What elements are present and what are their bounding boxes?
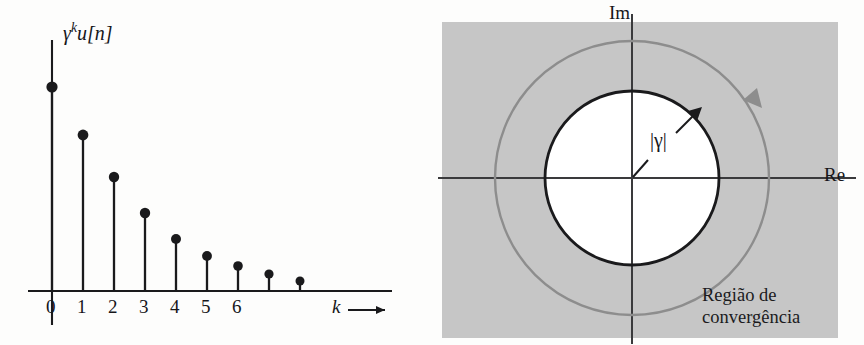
roc-region-label: Região de convergência bbox=[702, 285, 800, 329]
roc-label-line-1: Região de bbox=[702, 285, 800, 307]
gamma-symbol: γ bbox=[63, 22, 71, 44]
left-panel-stem-plot: γku[n] 0 1 2 3 4 5 6 k bbox=[0, 0, 432, 345]
u-of-n: u[n] bbox=[77, 22, 113, 44]
real-axis-label: Re bbox=[824, 165, 845, 184]
figure-container: γku[n] 0 1 2 3 4 5 6 k bbox=[0, 0, 864, 345]
x-axis-arrow bbox=[348, 306, 385, 314]
xtick-label-0: 0 bbox=[46, 297, 56, 316]
xtick-label-6: 6 bbox=[232, 297, 242, 316]
signal-expression-label: γku[n] bbox=[63, 21, 113, 43]
gamma-magnitude-label: |γ| bbox=[650, 130, 667, 150]
imaginary-axis-label: Im bbox=[609, 3, 630, 22]
xtick-label-4: 4 bbox=[170, 297, 180, 316]
stem-plot-svg bbox=[0, 0, 432, 345]
xtick-label-3: 3 bbox=[139, 297, 149, 316]
xtick-label-1: 1 bbox=[77, 297, 87, 316]
xtick-label-2: 2 bbox=[108, 297, 118, 316]
stem-lines bbox=[52, 87, 300, 291]
right-panel-z-plane: Im Re |γ| Região de convergência bbox=[432, 0, 864, 345]
xtick-label-5: 5 bbox=[201, 297, 211, 316]
x-axis-variable-label: k bbox=[332, 297, 340, 316]
roc-label-line-2: convergência bbox=[702, 307, 800, 329]
